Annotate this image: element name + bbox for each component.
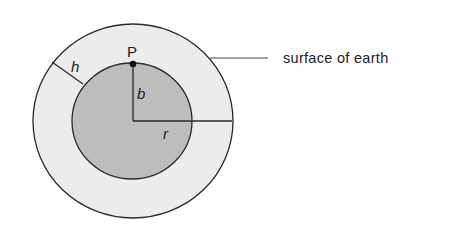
earth-diagram: P b r h surface of earth xyxy=(0,0,451,231)
point-p-dot xyxy=(130,61,137,68)
label-h: h xyxy=(71,58,79,75)
label-surface-of-earth: surface of earth xyxy=(283,50,389,66)
label-p: P xyxy=(127,43,137,60)
label-b: b xyxy=(137,85,145,102)
